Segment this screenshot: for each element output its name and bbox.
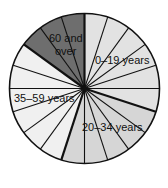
label-35-59-years: 35–59 years	[14, 92, 75, 104]
label-0-19-years: 0–19 years	[95, 54, 150, 66]
pie-chart: 60 and over 0–19 years 35–59 years 20–34…	[0, 0, 168, 188]
pie-center	[82, 86, 87, 91]
label-60-and-over-line1: 60 and	[49, 32, 83, 44]
label-20-34-years: 20–34 years	[82, 121, 143, 133]
label-60-and-over-line2: over	[55, 45, 77, 57]
